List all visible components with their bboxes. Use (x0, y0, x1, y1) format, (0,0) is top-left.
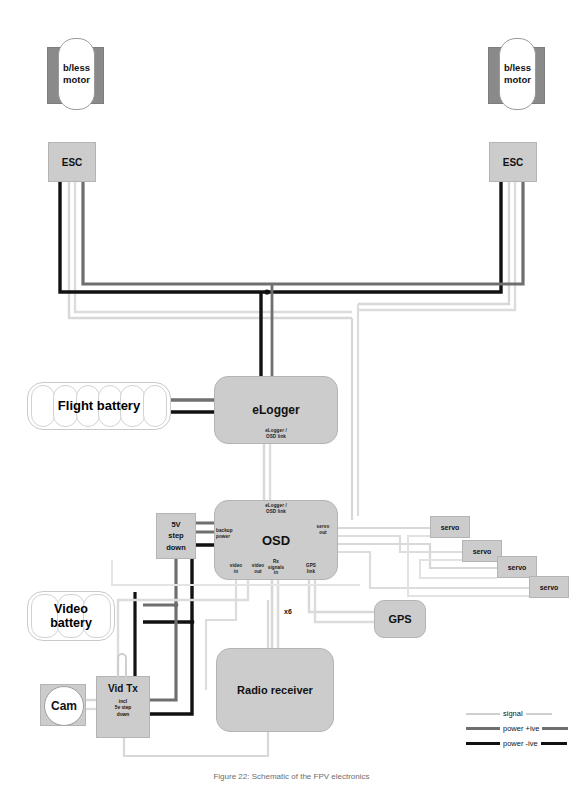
esc-left-label: ESC (62, 157, 83, 168)
port-elogger-osd-link-bottom: eLogger / OSD link (248, 503, 304, 514)
legend-swatch-signal-tail (526, 713, 552, 715)
radio-receiver[interactable]: Radio receiver (216, 648, 334, 732)
battery-cell (76, 385, 100, 427)
vid-tx-sublabel: incl 5v step down (115, 699, 132, 718)
esc-right-label: ESC (503, 157, 524, 168)
elogger-label: eLogger (252, 403, 299, 417)
camera-label: Cam (51, 699, 77, 713)
vid-tx-label: Vid Tx (108, 683, 138, 694)
legend-label-signal: signal (500, 709, 526, 718)
rx-channel-count-label: x6 (284, 608, 292, 615)
port-backup-power: backup power (216, 528, 246, 539)
port-video-in: video in (226, 563, 246, 574)
motor-left-label: b/less motor (59, 62, 94, 86)
legend-swatch-power-positive (466, 727, 500, 730)
battery-cell (31, 385, 55, 427)
video-transmitter[interactable]: Vid Tx incl 5v step down (96, 676, 150, 738)
battery-cell (53, 385, 77, 427)
servo-2[interactable]: servo (462, 540, 502, 562)
battery-cell (57, 594, 85, 638)
step-down-converter[interactable]: 5V step down (156, 513, 196, 559)
servo-4-label: servo (540, 584, 559, 591)
servo-4[interactable]: servo (529, 576, 569, 598)
port-gps-link: GPS link (300, 563, 322, 574)
legend-swatch-power-negative-tail (541, 742, 567, 745)
servo-3-label: servo (508, 564, 527, 571)
legend-swatch-power-positive-tail (542, 727, 568, 730)
wiring-diagram: b/less motor ESC b/less motor ESC Flight… (0, 0, 583, 790)
battery-cell (98, 385, 122, 427)
legend-item-power-negative: power -ive (466, 736, 578, 751)
esc-right[interactable]: ESC (489, 142, 537, 182)
osd-label: OSD (262, 533, 290, 548)
legend-item-signal: signal (466, 706, 578, 721)
servo-1-label: servo (441, 524, 460, 531)
legend-label-power-negative: power -ive (500, 739, 541, 748)
battery-cell (120, 385, 144, 427)
servo-3[interactable]: servo (497, 556, 537, 578)
legend-swatch-signal (466, 713, 500, 715)
port-rx-signals-in: Rx signals in (264, 559, 288, 576)
legend-label-power-positive: power +ive (500, 724, 542, 733)
battery-cell (83, 594, 111, 638)
esc-left[interactable]: ESC (48, 142, 96, 182)
gps-module[interactable]: GPS (374, 600, 426, 638)
legend: signal power +ive power -ive (466, 706, 578, 751)
battery-cell (31, 594, 59, 638)
motor-right-label: b/less motor (500, 62, 535, 86)
port-servo-out: servo out (310, 524, 336, 535)
flight-battery[interactable]: Flight battery (27, 382, 171, 430)
brushless-motor-right[interactable]: b/less motor (499, 38, 536, 110)
port-elogger-osd-link-top: eLogger / OSD link (248, 428, 304, 439)
legend-item-power-positive: power +ive (466, 721, 578, 736)
servo-2-label: servo (473, 548, 492, 555)
vid-tx-antenna-icon (110, 650, 132, 678)
camera[interactable]: Cam (44, 686, 84, 726)
radio-receiver-label: Radio receiver (237, 684, 313, 696)
video-battery[interactable]: Video battery (27, 591, 115, 641)
gps-label: GPS (388, 613, 411, 625)
brushless-motor-left[interactable]: b/less motor (58, 38, 95, 110)
legend-swatch-power-negative (466, 742, 500, 745)
servo-1[interactable]: servo (430, 516, 470, 538)
figure-caption: Figure 22: Schematic of the FPV electron… (0, 772, 583, 781)
step-down-label: 5V step down (166, 519, 186, 553)
battery-cell (143, 385, 167, 427)
